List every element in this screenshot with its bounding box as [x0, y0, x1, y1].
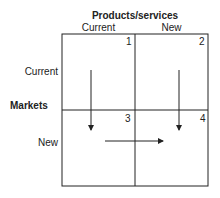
matrix-grid	[0, 0, 220, 198]
cell-number-1: 1	[126, 36, 132, 47]
cell-number-4: 4	[200, 113, 206, 124]
cell-number-3: 3	[125, 113, 131, 124]
cell-number-2: 2	[199, 36, 205, 47]
